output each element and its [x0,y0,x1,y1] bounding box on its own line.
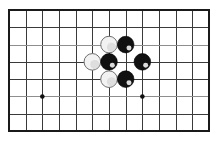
black-stone-highlight [143,63,148,68]
go-board-figure: Go board position diagram [0,0,217,143]
black-stone-body [117,71,134,88]
black-stone-body [101,54,118,71]
black-stone-highlight [127,80,132,85]
white-stone-shading [90,60,99,69]
black-stone[interactable] [101,54,118,71]
black-stone-highlight [110,63,115,68]
black-stone[interactable] [117,36,134,53]
go-board-canvas[interactable] [0,0,217,143]
black-stone[interactable] [117,71,134,88]
black-stone-body [117,36,134,53]
white-stone-shading [107,43,116,52]
white-stone[interactable] [84,54,101,71]
black-stone-body [134,54,151,71]
white-stone-shading [107,77,116,86]
white-stone[interactable] [101,71,118,88]
black-stone-highlight [127,46,132,51]
star-point [140,94,145,99]
star-point [40,94,45,99]
white-stone[interactable] [101,36,118,53]
black-stone[interactable] [134,54,151,71]
